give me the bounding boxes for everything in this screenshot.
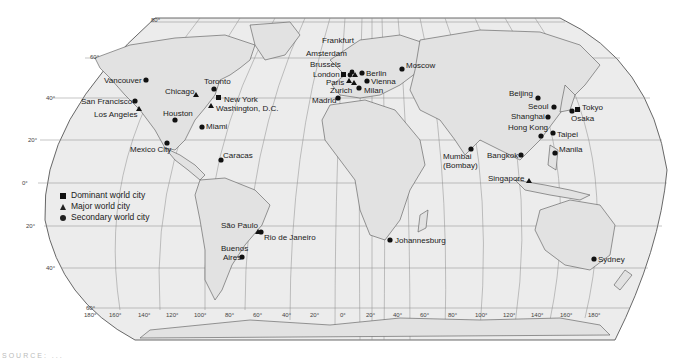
label-tokyo: Tokyo — [582, 103, 603, 112]
lat-label-80n: 80° — [151, 17, 160, 23]
legend-label: Dominant world city — [71, 190, 145, 201]
legend-item-secondary: Secondary world city — [60, 212, 149, 223]
label-mexico-city: Mexico City — [130, 145, 171, 154]
label-buenos-aires-1: Buenos — [221, 244, 248, 253]
label-amsterdam: Amsterdam — [306, 49, 347, 58]
label-sydney: Sydney — [598, 255, 625, 264]
marker-toronto[interactable] — [211, 86, 216, 91]
legend-label: Secondary world city — [71, 212, 149, 223]
source-caption: SOURCE: ... — [2, 352, 64, 359]
lon-label-160e: 160° — [560, 312, 572, 318]
marker-bangkok[interactable] — [518, 152, 523, 157]
marker-moscow[interactable] — [399, 66, 404, 71]
lat-label-20s: 20° — [26, 223, 35, 229]
marker-sydney[interactable] — [591, 256, 596, 261]
label-mumbai-1: Mumbai — [443, 152, 471, 161]
marker-berlin[interactable] — [359, 70, 364, 75]
lon-label-20e: 20° — [366, 312, 375, 318]
marker-houston[interactable] — [172, 117, 177, 122]
triangle-icon — [60, 204, 66, 210]
marker-vancouver[interactable] — [143, 77, 148, 82]
lon-label-120e: 120° — [503, 312, 515, 318]
label-los-angeles: Los Angeles — [94, 110, 138, 119]
label-sao-paulo: São Paulo — [221, 221, 258, 230]
label-miami: Miami — [206, 122, 227, 131]
legend-label: Major world city — [71, 201, 130, 212]
label-hong-kong: Hong Kong — [508, 123, 548, 132]
lon-label-120w: 120° — [166, 312, 178, 318]
legend-item-dominant: Dominant world city — [60, 190, 149, 201]
label-frankfurt: Frankfurt — [322, 36, 354, 45]
lat-label-20n: 20° — [28, 137, 37, 143]
label-seoul: Seoul — [528, 102, 548, 111]
marker-taipei[interactable] — [550, 130, 555, 135]
label-beijing: Beijing — [509, 89, 533, 98]
marker-vienna[interactable] — [364, 78, 369, 83]
circle-icon — [60, 215, 66, 221]
label-mumbai-2: (Bombay) — [443, 161, 478, 170]
label-houston: Houston — [163, 109, 193, 118]
marker-tokyo[interactable] — [575, 107, 580, 112]
lon-label-80w: 80° — [225, 312, 234, 318]
marker-hong-kong[interactable] — [538, 133, 543, 138]
lon-label-60e: 60° — [420, 312, 429, 318]
label-moscow: Moscow — [406, 61, 435, 70]
marker-mumbai[interactable] — [468, 146, 473, 151]
square-icon — [60, 193, 66, 199]
label-zurich: Zurich — [330, 86, 352, 95]
lon-label-160w: 160° — [109, 312, 121, 318]
marker-brussels[interactable] — [348, 73, 353, 78]
marker-seoul[interactable] — [551, 104, 556, 109]
lon-label-100e: 100° — [475, 312, 487, 318]
marker-johannesburg[interactable] — [387, 237, 392, 242]
marker-miami[interactable] — [199, 124, 204, 129]
marker-milan[interactable] — [356, 85, 361, 90]
label-manila: Manila — [559, 145, 583, 154]
marker-rio[interactable] — [258, 229, 263, 234]
label-vienna: Vienna — [371, 77, 396, 86]
lat-label-40s: 40° — [46, 265, 55, 271]
marker-london[interactable] — [341, 72, 346, 77]
lon-label-180e: 180° — [588, 312, 600, 318]
lat-label-0: 0° — [22, 180, 28, 186]
label-shanghai: Shanghai — [511, 112, 545, 121]
label-new-york: New York — [224, 95, 258, 104]
label-milan: Milan — [364, 86, 383, 95]
lon-label-180w: 180° — [84, 312, 96, 318]
lon-label-60w: 60° — [253, 312, 262, 318]
label-vancouver: Vancouver — [104, 76, 142, 85]
label-madrid: Madrid — [312, 96, 336, 105]
label-caracas: Caracas — [223, 151, 253, 160]
marker-manila[interactable] — [552, 150, 557, 155]
legend-item-major: Major world city — [60, 201, 149, 212]
marker-osaka[interactable] — [569, 108, 574, 113]
lon-label-40e: 40° — [393, 312, 402, 318]
lat-label-60n: 60° — [90, 54, 99, 60]
lon-label-100w: 100° — [194, 312, 206, 318]
marker-new-york[interactable] — [216, 95, 221, 100]
label-osaka: Osaka — [571, 114, 594, 123]
lat-label-40n: 40° — [46, 95, 55, 101]
label-chicago: Chicago — [165, 87, 194, 96]
label-johannesburg: Johannesburg — [395, 236, 446, 245]
marker-shanghai[interactable] — [545, 114, 550, 119]
map-legend: Dominant world city Major world city Sec… — [60, 190, 149, 223]
label-brussels: Brussels — [310, 60, 341, 69]
lon-label-40w: 40° — [282, 312, 291, 318]
marker-beijing[interactable] — [535, 95, 540, 100]
marker-san-francisco[interactable] — [132, 98, 137, 103]
lon-label-0: 0° — [340, 312, 346, 318]
lon-label-20w: 20° — [310, 312, 319, 318]
label-washington: Washington, D.C. — [216, 104, 278, 113]
philippines — [548, 145, 558, 170]
label-san-francisco: San Francisco — [81, 97, 132, 106]
label-rio: Rio de Janeiro — [264, 233, 316, 242]
lon-label-80e: 80° — [448, 312, 457, 318]
label-toronto: Toronto — [204, 77, 231, 86]
label-singapore: Singapore — [488, 174, 524, 183]
label-bangkok: Bangkok — [487, 151, 518, 160]
label-taipei: Taipei — [557, 130, 578, 139]
lon-label-140e: 140° — [531, 312, 543, 318]
lat-label-60s: 60° — [86, 305, 95, 311]
label-buenos-aires-2: Aires — [223, 253, 241, 262]
